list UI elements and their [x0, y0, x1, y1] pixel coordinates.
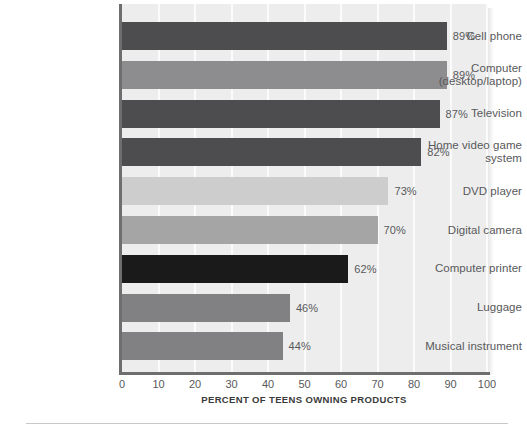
category-label-line: DVD player	[408, 185, 522, 198]
x-axis-line	[119, 372, 490, 375]
x-tick-label: 70	[371, 378, 383, 390]
x-tick-label: 10	[152, 378, 164, 390]
category-label-line: (desktop/laptop)	[408, 75, 522, 88]
category-label: Luggage	[408, 301, 522, 314]
category-label-line: Television	[408, 107, 522, 120]
bar	[122, 294, 290, 322]
category-label: Computer printer	[408, 262, 522, 275]
bar	[122, 177, 388, 205]
category-label: Musical instrument	[408, 340, 522, 353]
category-label-line: Computer	[408, 62, 522, 75]
category-label: Home video gamesystem	[408, 139, 522, 165]
x-tick-label: 90	[444, 378, 456, 390]
x-tick-label: 40	[262, 378, 274, 390]
x-tick-label: 0	[119, 378, 125, 390]
bar	[122, 22, 447, 50]
bar-value-label: 70%	[384, 224, 406, 236]
category-label: Cell phone	[408, 30, 522, 43]
bar	[122, 255, 348, 283]
x-tick-label: 50	[298, 378, 310, 390]
category-label-line: Luggage	[408, 301, 522, 314]
x-axis-title: PERCENT OF TEENS OWNING PRODUCTS	[121, 394, 487, 405]
category-label: DVD player	[408, 185, 522, 198]
category-label: Computer(desktop/laptop)	[408, 62, 522, 88]
x-tick-label: 80	[408, 378, 420, 390]
bar	[122, 216, 378, 244]
bar	[122, 138, 421, 166]
category-label-line: Home video game	[408, 139, 522, 152]
x-tick-label: 20	[189, 378, 201, 390]
x-tick-label: 60	[335, 378, 347, 390]
bar	[122, 100, 440, 128]
bottom-divider	[26, 423, 508, 424]
category-label-line: Cell phone	[408, 30, 522, 43]
category-label-line: Computer printer	[408, 262, 522, 275]
category-label: Digital camera	[408, 224, 522, 237]
x-tick-label: 30	[225, 378, 237, 390]
category-label-line: Musical instrument	[408, 340, 522, 353]
x-tick-label: 100	[478, 378, 496, 390]
bar	[122, 61, 447, 89]
bar	[122, 332, 283, 360]
category-label-line: Digital camera	[408, 224, 522, 237]
bar-value-label: 44%	[289, 340, 311, 352]
category-label: Television	[408, 107, 522, 120]
bar-value-label: 46%	[296, 302, 318, 314]
category-label-line: system	[408, 152, 522, 165]
bar-value-label: 62%	[354, 263, 376, 275]
